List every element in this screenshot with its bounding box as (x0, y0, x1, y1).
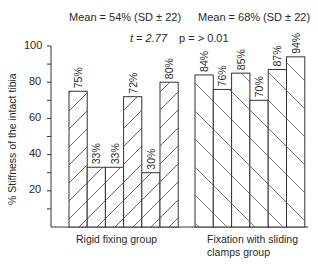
group-label-sliding-line2: clamps group (207, 246, 270, 258)
bars-rigid-group (69, 82, 178, 227)
group-label-rigid: Rigid fixing group (76, 233, 157, 245)
bar-chart: 75%33%33%72%30%80%84%76%85%70%87%94% (0, 0, 318, 265)
bar-value-label: 33% (90, 143, 102, 164)
group-label-sliding-line1: Fixation with sliding (207, 233, 298, 245)
bar-value-label: 72% (127, 73, 139, 94)
bar-value-label: 84% (198, 51, 210, 72)
bars-sliding-group (195, 57, 305, 227)
bar-value-label: 70% (253, 76, 265, 97)
bar-value-label: 75% (72, 67, 84, 88)
bar-value-label: 33% (109, 143, 121, 164)
bar-value-label: 87% (271, 46, 283, 67)
bar-value-label: 94% (290, 33, 302, 54)
bar-value-label: 30% (145, 149, 157, 170)
bar-value-label: 85% (235, 49, 247, 70)
bar-value-label: 80% (163, 58, 175, 79)
bar-value-label: 76% (216, 65, 228, 86)
